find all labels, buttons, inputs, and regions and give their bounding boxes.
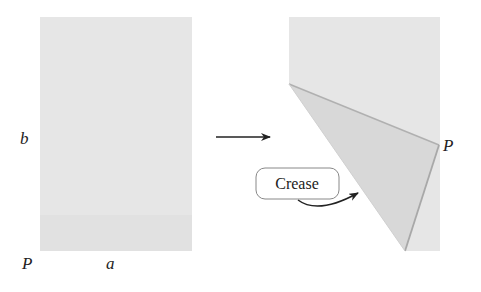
folded-sheet (289, 17, 440, 251)
label-a: a (106, 254, 115, 273)
crease-callout: Crease (256, 168, 358, 206)
unfolded-sheet (40, 17, 192, 251)
label-p-corner: P (21, 254, 32, 273)
label-p-folded: P (442, 136, 453, 155)
label-b: b (20, 129, 29, 148)
crease-label: Crease (275, 175, 319, 192)
paper-fold-diagram: b P a P Crease (0, 0, 481, 292)
